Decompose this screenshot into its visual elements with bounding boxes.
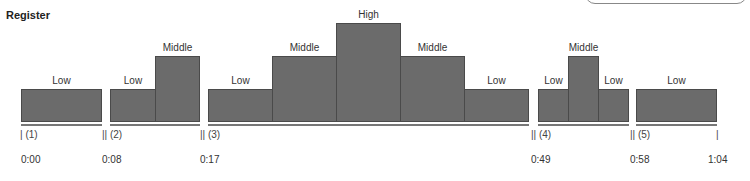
bar-middle [400, 56, 465, 122]
bar-label: Middle [400, 42, 465, 53]
bar-label: Low [208, 75, 273, 86]
bar-low [598, 89, 629, 122]
section-marker-3: || (3) [200, 129, 220, 140]
diagram-title: Register [6, 9, 50, 21]
bar-middle [155, 56, 200, 122]
section-marker-4: || (4) [531, 129, 551, 140]
section-baseline [636, 124, 717, 126]
bar-label: High [336, 9, 401, 20]
bar-low [464, 89, 529, 122]
bar-low [538, 89, 569, 122]
bar-label: Low [464, 75, 529, 86]
timestamp: 0:00 [21, 154, 40, 165]
bar-label: Middle [155, 42, 200, 53]
bar-high [336, 23, 401, 122]
section-baseline [110, 124, 200, 126]
section-marker-end: | [716, 129, 719, 140]
bar-label: Middle [564, 42, 603, 53]
bar-label: Low [21, 75, 102, 86]
callout-box [585, 0, 747, 4]
bar-low [110, 89, 156, 122]
section-marker-5: || (5) [630, 129, 650, 140]
section-baseline [21, 124, 102, 126]
bar-low [21, 89, 102, 122]
bar-low [636, 89, 717, 122]
bar-label: Low [538, 75, 569, 86]
section-baseline [208, 124, 529, 126]
bar-label: Low [110, 75, 156, 86]
bar-low [208, 89, 273, 122]
timestamp: 0:17 [200, 154, 219, 165]
bar-middle [568, 56, 599, 122]
timestamp: 0:49 [531, 154, 550, 165]
section-baseline [538, 124, 629, 126]
bar-label: Middle [272, 42, 337, 53]
bar-middle [272, 56, 337, 122]
timestamp: 1:04 [708, 154, 727, 165]
section-marker-2: || (2) [102, 129, 122, 140]
timestamp: 0:08 [102, 154, 121, 165]
bar-label: Low [636, 75, 717, 86]
bar-label: Low [598, 75, 629, 86]
timestamp: 0:58 [630, 154, 649, 165]
section-marker-1: | (1) [20, 129, 38, 140]
